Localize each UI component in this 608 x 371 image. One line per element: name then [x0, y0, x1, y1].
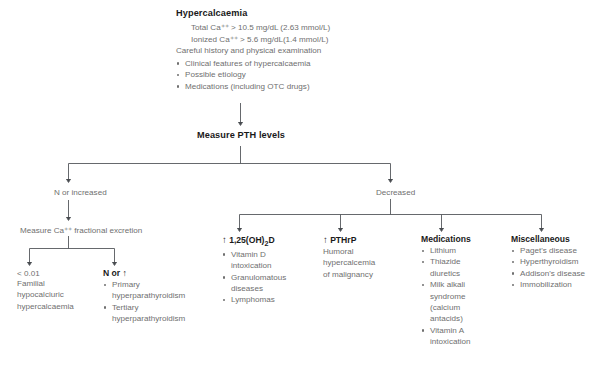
list-item: Lymphomas	[222, 294, 306, 305]
assessment-line: Careful history and physical examination	[176, 45, 476, 57]
arrow-up-icon: ↑	[323, 234, 328, 245]
column-pthrp: ↑ PTHrP Humoral hypercalcemia of maligna…	[323, 234, 403, 280]
list-item: Lithium	[421, 245, 483, 256]
criteria-line-1: Total Ca⁺⁺ > 10.5 mg/dL (2.63 mmol/L)	[176, 22, 476, 34]
list-item: Thiazide diuretics	[421, 256, 483, 279]
column-miscellaneous: Miscellaneous Paget's disease Hyperthyro…	[511, 234, 603, 291]
criteria-line-2: Ionized Ca⁺⁺ > 5.6 mg/dL(1.4 mmol/L)	[176, 34, 476, 46]
outcome-fe-normal: N or ↑ Primary hyperparathyroidism Terti…	[103, 268, 183, 325]
list-item: Primary hyperparathyroidism	[103, 279, 183, 302]
arrow-up-icon: ↑	[222, 234, 227, 245]
column-miscellaneous-heading: Miscellaneous	[511, 234, 603, 244]
outcome-fe-normal-list: Primary hyperparathyroidism Tertiary hyp…	[103, 279, 183, 325]
header-block: Hypercalcaemia Total Ca⁺⁺ > 10.5 mg/dL (…	[176, 8, 476, 92]
branch-label-left: N or increased	[54, 188, 107, 197]
list-item: Vitamin D intoxication	[222, 249, 306, 272]
column-vitd-list: Vitamin D intoxication Granulomatous dis…	[222, 249, 306, 306]
column-vitd-heading: ↑ 1,25(OH)2D	[222, 234, 306, 248]
outcome-fe-low-line-2: hypocalciuric	[17, 289, 95, 300]
column-vitd-heading-main: 1,25(OH)	[229, 235, 264, 245]
outcome-fe-low-line-1: Familial	[17, 278, 95, 289]
column-medications-heading: Medications	[421, 234, 483, 244]
column-miscellaneous-list: Paget's disease Hyperthyroidism Addison'…	[511, 245, 603, 291]
list-item: Milk alkali syndrome (calcium antacids)	[421, 279, 483, 325]
page-title: Hypercalcaemia	[176, 8, 476, 18]
list-item: Granulomatous diseases	[222, 272, 306, 295]
list-item: Paget's disease	[511, 245, 603, 256]
outcome-fe-normal-label: N or ↑	[103, 268, 183, 278]
list-item: Possible etiology	[176, 69, 476, 80]
list-item: Medications (including OTC drugs)	[176, 81, 476, 92]
list-item: Tertiary hyperparathyroidism	[103, 302, 183, 325]
column-pthrp-line-2: hypercalcemia	[323, 257, 403, 268]
list-item: Addison's disease	[511, 268, 603, 279]
column-vitd: ↑ 1,25(OH)2D Vitamin D intoxication Gran…	[222, 234, 306, 306]
outcome-fe-low-label: < 0.01	[17, 269, 95, 278]
list-item: Clinical features of hypercalcaemia	[176, 58, 476, 69]
column-medications-list: Lithium Thiazide diuretics Milk alkali s…	[421, 245, 483, 348]
list-item: Immobilization	[511, 279, 603, 290]
column-pthrp-line-1: Humoral	[323, 246, 403, 257]
column-pthrp-heading-main: PTHrP	[330, 235, 356, 245]
column-medications: Medications Lithium Thiazide diuretics M…	[421, 234, 483, 348]
column-pthrp-line-3: of malignancy	[323, 269, 403, 280]
list-item: Vitamin A intoxication	[421, 325, 483, 348]
outcome-fe-low-line-3: hypercalcaemia	[17, 301, 95, 312]
node-measure-fractional-excretion: Measure Ca⁺⁺ fractional excretion	[20, 225, 142, 235]
node-measure-pth: Measure PTH levels	[196, 130, 286, 140]
list-item: Hyperthyroidism	[511, 256, 603, 267]
assessment-list: Clinical features of hypercalcaemia Poss…	[176, 58, 476, 92]
column-pthrp-heading: ↑ PTHrP	[323, 234, 403, 245]
outcome-fe-low: < 0.01 Familial hypocalciuric hypercalca…	[17, 269, 95, 312]
column-vitd-heading-tail: D	[268, 235, 274, 245]
branch-label-right: Decreased	[376, 188, 415, 197]
